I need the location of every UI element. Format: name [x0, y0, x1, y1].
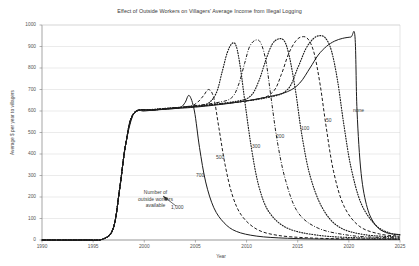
series-label: 100 [301, 125, 309, 131]
series-label: none [353, 107, 364, 113]
y-tick-marks [40, 25, 43, 240]
y-tick-label: 200 [14, 194, 36, 199]
y-tick-label: 1000 [14, 22, 36, 27]
y-tick-label: 400 [14, 151, 36, 156]
x-tick-label: 2015 [283, 244, 313, 249]
x-tick-label: 1995 [78, 244, 108, 249]
series-line [42, 89, 400, 240]
y-tick-label: 800 [14, 65, 36, 70]
series-label: 200 [276, 133, 284, 139]
y-tick-label: 600 [14, 108, 36, 113]
annotation-line-2: outside workers [138, 196, 173, 203]
series-label: 500 [216, 154, 224, 160]
series-label: 700 [196, 172, 204, 178]
y-tick-label: 700 [14, 87, 36, 92]
x-tick-label: 2000 [129, 244, 159, 249]
annotation-line-3: available [138, 202, 173, 209]
series-label: 50 [326, 117, 332, 123]
x-tick-label: 2010 [232, 244, 262, 249]
y-tick-label: 500 [14, 130, 36, 135]
annotation-line-1: Number of [138, 189, 173, 196]
x-tick-label: 1990 [27, 244, 57, 249]
x-tick-label: 2005 [180, 244, 210, 249]
chart-plot-area [0, 0, 419, 266]
annotation-callout: Number of outside workers available [138, 189, 173, 209]
y-tick-label: 100 [14, 216, 36, 221]
x-tick-label: 2025 [385, 244, 415, 249]
y-tick-label: 0 [14, 237, 36, 242]
x-tick-label: 2020 [334, 244, 364, 249]
data-series-group [42, 31, 400, 240]
gridlines [42, 25, 400, 240]
y-tick-label: 300 [14, 173, 36, 178]
series-label: 300 [252, 143, 260, 149]
series-line [42, 31, 400, 240]
chart-page: Effect of Outside Workers on Villagers' … [0, 0, 419, 266]
y-tick-label: 900 [14, 44, 36, 49]
